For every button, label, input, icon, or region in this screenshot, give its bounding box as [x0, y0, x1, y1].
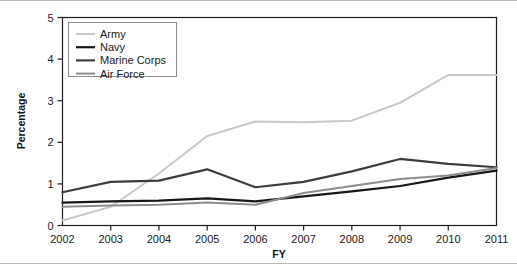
y-tick-label: 5	[47, 12, 53, 24]
y-tick-label: 2	[47, 136, 53, 148]
line-chart: 012345 200220032004200520062007200820092…	[0, 1, 517, 264]
x-axis-ticks	[111, 226, 449, 231]
x-tick-label: 2005	[195, 233, 219, 245]
chart-legend: ArmyNavyMarine CorpsAir Force	[69, 23, 177, 80]
y-axis-ticks	[58, 18, 63, 226]
x-tick-label: 2011	[485, 233, 509, 245]
legend-label-air-force: Air Force	[100, 68, 145, 80]
x-tick-label: 2008	[340, 233, 364, 245]
legend-label-marine-corps: Marine Corps	[100, 54, 167, 66]
y-tick-label: 0	[47, 220, 53, 232]
y-axis-tick-labels: 012345	[47, 12, 53, 232]
x-axis-title: FY	[272, 248, 285, 260]
x-tick-label: 2003	[98, 233, 122, 245]
x-tick-label: 2009	[388, 233, 412, 245]
chart-figure: 012345 200220032004200520062007200820092…	[0, 0, 517, 264]
x-axis-tick-labels: 2002200320042005200620072008200920102011	[50, 233, 508, 245]
legend-label-army: Army	[100, 28, 126, 40]
x-tick-label: 2010	[436, 233, 460, 245]
y-tick-label: 4	[47, 53, 53, 65]
x-tick-label: 2006	[243, 233, 267, 245]
y-axis-title: Percentage	[15, 93, 27, 150]
x-tick-label: 2007	[291, 233, 315, 245]
y-tick-label: 3	[47, 95, 53, 107]
y-tick-label: 1	[47, 178, 53, 190]
x-tick-label: 2002	[50, 233, 74, 245]
legend-label-navy: Navy	[100, 41, 126, 53]
x-tick-label: 2004	[147, 233, 171, 245]
